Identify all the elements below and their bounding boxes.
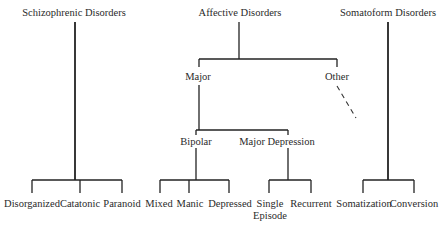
node-affective-disorders: Affective Disorders [199, 7, 282, 19]
node-major-depression: Major Depression [239, 136, 315, 148]
disorder-classification-diagram: Schizophrenic Disorders Affective Disord… [0, 0, 443, 228]
node-bipolar: Bipolar [180, 136, 212, 148]
leaf-single-episode: Single Episode [253, 198, 287, 222]
leaf-paranoid: Paranoid [103, 198, 140, 210]
leaf-somatization: Somatization [336, 198, 391, 210]
leaf-manic: Manic [177, 198, 204, 210]
node-other: Other [325, 71, 349, 83]
leaf-recurrent: Recurrent [290, 198, 331, 210]
tree-connectors [0, 0, 443, 228]
leaf-catatonic: Catatonic [60, 198, 100, 210]
leaf-conversion: Conversion [390, 198, 438, 210]
leaf-mixed: Mixed [145, 198, 172, 210]
other-dashed-connector [337, 86, 356, 118]
leaf-disorganized: Disorganized [4, 198, 60, 210]
node-schizophrenic-disorders: Schizophrenic Disorders [22, 7, 126, 19]
node-major: Major [185, 71, 211, 83]
node-somatoform-disorders: Somatoform Disorders [340, 7, 436, 19]
leaf-depressed: Depressed [208, 198, 252, 210]
